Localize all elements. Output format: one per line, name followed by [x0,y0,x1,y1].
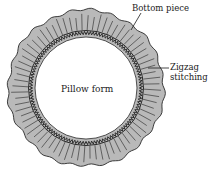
bottom-piece-label: Bottom piece [132,4,189,13]
stitching-label: stitching [170,73,208,82]
zigzag-label: Zigzag [170,63,199,72]
diagram: Bottom piece Zigzag stitching Pillow for… [0,0,211,178]
pillow-form-label: Pillow form [61,85,113,94]
bottom-piece-leader-line [131,13,141,30]
